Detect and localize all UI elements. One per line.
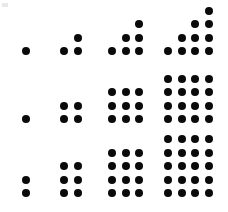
dot: [178, 75, 186, 83]
dot: [205, 176, 213, 184]
dot: [135, 189, 143, 197]
dot: [60, 47, 68, 55]
dot: [108, 149, 116, 157]
dot: [164, 176, 172, 184]
dot: [178, 47, 186, 55]
dot: [178, 135, 186, 143]
dot: [178, 115, 186, 123]
dot: [122, 34, 130, 42]
dot: [205, 88, 213, 96]
dot: [205, 75, 213, 83]
dot: [191, 162, 199, 170]
dot: [164, 149, 172, 157]
dot: [60, 102, 68, 110]
dot: [135, 176, 143, 184]
dot: [164, 189, 172, 197]
dot: [74, 162, 82, 170]
dot: [164, 88, 172, 96]
dot: [164, 135, 172, 143]
dot: [60, 189, 68, 197]
dot: [205, 162, 213, 170]
dot: [60, 176, 68, 184]
dot: [60, 162, 68, 170]
dot: [135, 102, 143, 110]
dot: [122, 162, 130, 170]
dot: [108, 102, 116, 110]
dot: [122, 189, 130, 197]
dot: [191, 102, 199, 110]
figurate-number-diagram: [0, 0, 228, 212]
dot: [164, 75, 172, 83]
dot: [191, 176, 199, 184]
dot: [135, 47, 143, 55]
dot: [205, 102, 213, 110]
dot: [191, 149, 199, 157]
dot: [205, 34, 213, 42]
dot: [178, 189, 186, 197]
dot: [178, 88, 186, 96]
dot: [135, 115, 143, 123]
dot: [122, 149, 130, 157]
dot: [135, 34, 143, 42]
dot: [191, 135, 199, 143]
dot: [135, 20, 143, 28]
dot: [191, 75, 199, 83]
dot: [108, 162, 116, 170]
dot: [122, 176, 130, 184]
dot: [108, 88, 116, 96]
dot: [74, 115, 82, 123]
dot: [108, 115, 116, 123]
dot: [135, 149, 143, 157]
dot: [108, 47, 116, 55]
dot: [205, 7, 213, 15]
dot: [74, 47, 82, 55]
dot: [178, 149, 186, 157]
dot: [22, 189, 30, 197]
dot: [135, 88, 143, 96]
dot: [122, 47, 130, 55]
dot: [122, 115, 130, 123]
dot: [135, 162, 143, 170]
dot: [191, 34, 199, 42]
dot: [191, 20, 199, 28]
dot: [74, 176, 82, 184]
dot: [74, 189, 82, 197]
dot: [205, 115, 213, 123]
dot: [205, 135, 213, 143]
dot: [205, 189, 213, 197]
dot: [178, 162, 186, 170]
dot: [122, 88, 130, 96]
dot: [164, 47, 172, 55]
dot: [164, 162, 172, 170]
dot: [191, 88, 199, 96]
dot: [60, 115, 68, 123]
dot: [191, 189, 199, 197]
dot: [22, 115, 30, 123]
dot: [205, 47, 213, 55]
dot: [22, 47, 30, 55]
dot: [191, 47, 199, 55]
dot: [205, 20, 213, 28]
dot: [74, 34, 82, 42]
dot: [108, 176, 116, 184]
dot: [205, 149, 213, 157]
dot: [108, 189, 116, 197]
dot: [178, 34, 186, 42]
dot: [178, 176, 186, 184]
dot: [122, 102, 130, 110]
dot: [164, 115, 172, 123]
scan-artifact: [2, 3, 8, 7]
dot: [74, 102, 82, 110]
dot: [191, 115, 199, 123]
dot: [178, 102, 186, 110]
dot: [164, 102, 172, 110]
dot: [22, 176, 30, 184]
